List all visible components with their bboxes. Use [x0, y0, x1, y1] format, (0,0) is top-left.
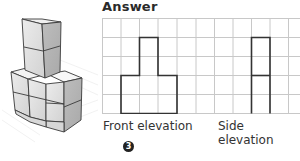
answer-heading: Answer — [102, 0, 158, 14]
side-elevation-outline — [252, 38, 271, 114]
front-elevation-label: Front elevation — [103, 119, 193, 133]
side-elevation-label: Side elevation — [218, 119, 300, 147]
question-number-badge: 3 — [123, 141, 134, 152]
isometric-cube-drawing — [0, 0, 100, 161]
elevation-grid — [102, 18, 300, 114]
